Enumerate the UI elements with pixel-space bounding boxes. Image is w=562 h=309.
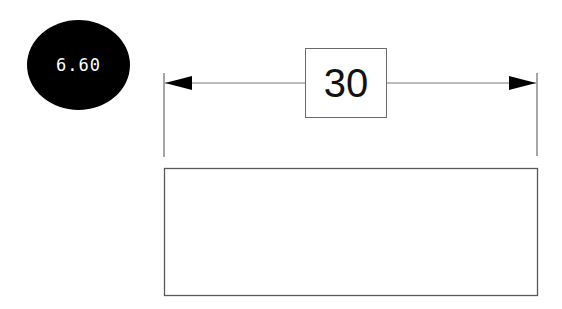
left-arrowhead-icon [165, 76, 192, 90]
right-arrowhead-icon [509, 76, 536, 90]
dimension-value: 30 [324, 61, 369, 106]
dimension-drawing [0, 0, 562, 309]
measured-rectangle [165, 169, 538, 296]
dimension-label-box: 30 [305, 48, 387, 118]
